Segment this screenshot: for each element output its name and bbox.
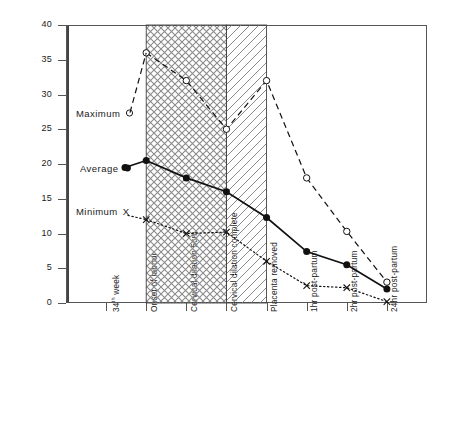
x-tick-label: Cervical dilation 5cm — [190, 231, 199, 312]
x-tick-label: 34th week — [110, 275, 121, 312]
y-tick-label: 35 — [28, 54, 52, 64]
x-tick-label: 2hr post-partum — [350, 250, 359, 312]
y-tick-label: 15 — [28, 193, 52, 203]
x-tick — [226, 303, 227, 311]
y-tick — [58, 95, 66, 96]
x-tick — [146, 303, 147, 311]
y-tick — [58, 268, 66, 269]
y-tick-label: 0 — [28, 297, 52, 307]
x-tick-label: Placenta removed — [270, 242, 279, 312]
filled-circle-icon — [123, 163, 132, 174]
legend-label-average: Average — [80, 163, 118, 174]
legend-label-minimum: Minimum — [76, 206, 118, 217]
x-tick-label: Cervical dilation complete — [230, 212, 239, 312]
legend-label-maximum: Maximum — [76, 108, 120, 119]
y-tick — [58, 164, 66, 165]
progesterone-labour-chart: μg progesterone/100ml plasma 05101520253… — [0, 0, 449, 423]
y-tick — [58, 303, 66, 304]
legend-item-average: Average — [80, 163, 132, 174]
x-tick — [186, 303, 187, 311]
open-circle-icon — [125, 108, 134, 119]
x-tick-label: Onset of labour — [150, 252, 159, 312]
legend-item-minimum: MinimumX — [76, 206, 129, 217]
x-tick — [106, 303, 107, 311]
x-tick — [307, 303, 308, 311]
y-tick — [58, 60, 66, 61]
y-tick — [58, 199, 66, 200]
x-tick — [387, 303, 388, 311]
y-tick — [58, 234, 66, 235]
x-tick-label: 24hr post-partum — [390, 246, 399, 312]
x-tick-label: 1hr post-partum — [310, 250, 319, 312]
legend-item-maximum: Maximum — [76, 108, 134, 119]
x-tick — [267, 303, 268, 311]
shaded-band-second-stage — [67, 26, 68, 302]
y-tick-label: 20 — [28, 158, 52, 168]
y-tick — [58, 25, 66, 26]
y-tick-label: 5 — [28, 262, 52, 272]
y-tick-label: 25 — [28, 123, 52, 133]
y-tick-label: 10 — [28, 228, 52, 238]
y-tick-label: 30 — [28, 89, 52, 99]
y-tick — [58, 129, 66, 130]
y-tick-label: 40 — [28, 19, 52, 29]
x-marker-icon: X — [123, 206, 130, 217]
x-tick — [347, 303, 348, 311]
